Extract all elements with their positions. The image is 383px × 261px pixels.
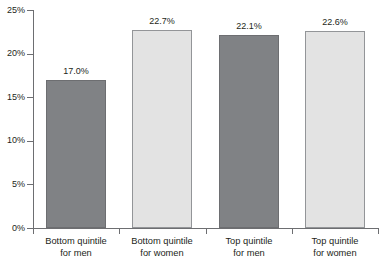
y-axis-tick-label: 25% [0,6,25,15]
bar-chart: 25%20%15%10%5%0% 17.0%22.7%22.1%22.6% Bo… [0,0,383,261]
category-label-line1: Bottom quintile [119,236,205,248]
y-axis-tick [27,184,33,185]
category-label-line2: for men [206,248,292,260]
y-axis-line [33,10,34,229]
category-label-line2: for men [33,248,119,260]
x-axis-tick [33,228,34,234]
bar[interactable] [132,30,192,228]
y-axis-tick-label: 5% [0,180,25,189]
y-axis-tick [27,141,33,142]
y-axis-tick-label: 0% [0,224,25,233]
bar-value-label: 17.0% [41,67,111,76]
y-axis-tick-label: 15% [0,93,25,102]
category-label-line2: for women [119,248,205,260]
bar[interactable] [46,80,106,228]
x-axis-tick [378,228,379,234]
y-axis-tick [27,97,33,98]
cropped-title-remnant [150,0,383,1]
category-label-line1: Bottom quintile [33,236,119,248]
y-axis-tick-label: 10% [0,136,25,145]
bar-value-label: 22.6% [300,18,370,27]
bar-value-label: 22.1% [214,22,284,31]
x-axis-tick [292,228,293,234]
y-axis-tick-label: 20% [0,49,25,58]
x-axis-category-label: Top quintilefor men [206,236,292,259]
x-axis-tick [119,228,120,234]
x-axis-category-label: Bottom quintilefor women [119,236,205,259]
bar[interactable] [219,35,279,228]
y-axis-tick [27,10,33,11]
bar-value-label: 22.7% [127,17,197,26]
x-axis-category-label: Bottom quintilefor men [33,236,119,259]
category-label-line1: Top quintile [292,236,378,248]
x-axis-tick [206,228,207,234]
category-label-line1: Top quintile [206,236,292,248]
y-axis-tick [27,54,33,55]
bar[interactable] [305,31,365,228]
x-axis-category-label: Top quintilefor women [292,236,378,259]
category-label-line2: for women [292,248,378,260]
